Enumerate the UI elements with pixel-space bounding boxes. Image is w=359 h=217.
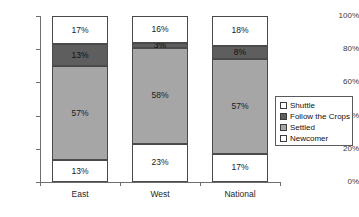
x-tick-mark [40, 182, 41, 186]
bar-segment-value: 18% [231, 26, 248, 35]
legend-label: Follow the Crops [290, 112, 350, 121]
legend-item-settled: Settled [280, 122, 349, 133]
bar-segment-settled: 57% [212, 59, 268, 154]
bar-segment-value: 16% [151, 25, 168, 34]
bar-segment-value: 17% [231, 163, 248, 172]
bar-segment-value: 57% [71, 109, 88, 118]
y-tick-mark [36, 16, 40, 17]
y-tick-label: 100% [325, 12, 359, 20]
stacked-bar-chart: 0%20%40%60%80%100% 13%57%13%17%23%58%3%1… [0, 0, 359, 217]
x-tick-mark [120, 182, 121, 186]
x-category-label-east: East [40, 189, 120, 199]
bar-segment-value: 8% [234, 48, 246, 57]
y-tick-mark [36, 116, 40, 117]
y-tick-label: 80% [325, 45, 359, 53]
y-tick-mark [36, 149, 40, 150]
legend-label: Newcomer [290, 134, 328, 143]
y-tick-label: 0% [325, 178, 359, 186]
x-tick-mark [200, 182, 201, 186]
bar-segment-follow-the-crops: 13% [52, 44, 108, 66]
y-tick-label: 60% [325, 78, 359, 86]
bar-west: 23%58%3%16% [132, 16, 188, 182]
x-category-label-national: National [200, 189, 280, 199]
bar-national: 17%57%8%18% [212, 16, 268, 182]
bar-segment-newcomer: 13% [52, 160, 108, 182]
legend-swatch [280, 124, 287, 131]
legend-swatch [280, 135, 287, 142]
bar-segment-value: 23% [151, 158, 168, 167]
bar-segment-follow-the-crops: 8% [212, 46, 268, 59]
bar-segment-shuttle: 16% [132, 16, 188, 43]
bar-segment-value: 13% [71, 167, 88, 176]
bar-segment-value: 57% [231, 102, 248, 111]
legend-swatch [280, 113, 287, 120]
y-tick-mark [36, 82, 40, 83]
legend-label: Shuttle [290, 101, 315, 110]
bar-segment-shuttle: 17% [52, 16, 108, 44]
bar-segment-value: 17% [71, 26, 88, 35]
x-tick-mark [280, 182, 281, 186]
bar-segment-newcomer: 17% [212, 154, 268, 182]
bar-segment-value: 13% [71, 51, 88, 60]
legend-item-follow-the-crops: Follow the Crops [280, 111, 349, 122]
bar-segment-value: 58% [151, 91, 168, 100]
bar-segment-newcomer: 23% [132, 144, 188, 182]
bar-segment-settled: 57% [52, 66, 108, 161]
legend-item-newcomer: Newcomer [280, 133, 349, 144]
y-axis-line [40, 16, 41, 182]
bar-segment-settled: 58% [132, 48, 188, 144]
legend-swatch [280, 102, 287, 109]
bar-segment-follow-the-crops: 3% [132, 43, 188, 48]
bar-east: 13%57%13%17% [52, 16, 108, 182]
x-axis-line [40, 182, 280, 183]
legend-label: Settled [290, 123, 315, 132]
chart-legend: ShuttleFollow the CropsSettledNewcomer [275, 96, 353, 146]
x-category-label-west: West [120, 189, 200, 199]
bar-segment-shuttle: 18% [212, 16, 268, 46]
legend-item-shuttle: Shuttle [280, 100, 349, 111]
y-tick-mark [36, 49, 40, 50]
